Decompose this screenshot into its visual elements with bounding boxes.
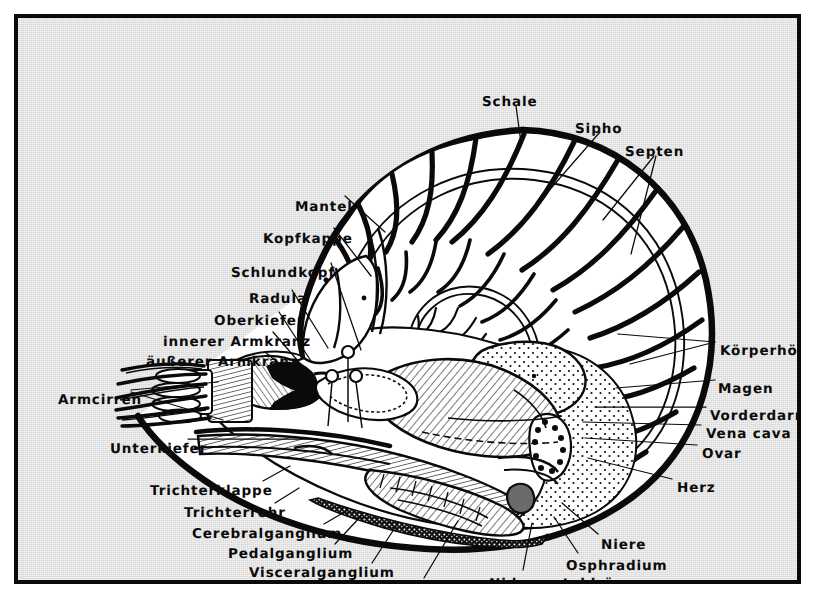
label-trichterklappe: Trichterklappe — [150, 485, 273, 499]
label-nidamentaldruese: Nidamentaldrüse — [489, 578, 633, 584]
label-mantel: Mantel — [295, 201, 353, 215]
label-septen: Septen — [625, 146, 684, 160]
heart-organ — [507, 484, 534, 513]
label-oberkiefer: Oberkiefer — [214, 315, 304, 329]
label-pedalganglium: Pedalganglium — [228, 548, 353, 562]
label-innerer-armkranz: innerer Armkranz — [163, 336, 311, 350]
label-sipho: Sipho — [575, 123, 622, 137]
label-vena-cava: Vena cava — [706, 428, 791, 442]
figure-root: SchaleSiphoSeptenMantelKopfkappeSchlundk… — [0, 0, 819, 603]
label-cerebralganglium: Cerebralganglium — [192, 528, 342, 542]
plate-frame: SchaleSiphoSeptenMantelKopfkappeSchlundk… — [14, 14, 801, 584]
label-kopfkappe: Kopfkappe — [263, 233, 353, 247]
label-schlundkopf: Schlundkopf — [231, 267, 335, 281]
osphradium — [529, 414, 571, 481]
label-osphradium: Osphradium — [566, 560, 668, 574]
label-unterkiefer: Unterkiefer — [110, 443, 207, 457]
label-aeusserer-armkranz: äußerer Armkranz — [146, 356, 299, 370]
label-ovar: Ovar — [702, 448, 742, 462]
label-armcirren: Armcirren — [58, 394, 142, 408]
label-vorderdarm: Vorderdarm — [710, 410, 801, 424]
label-schale: Schale — [482, 96, 538, 110]
label-herz: Herz — [677, 482, 716, 496]
label-niere: Niere — [601, 539, 646, 553]
label-visceralganglium: Visceralganglium — [249, 567, 395, 581]
label-radula: Radula — [249, 293, 307, 307]
label-koerperhoehle: Körperhöhle — [720, 345, 801, 359]
label-magen: Magen — [718, 383, 773, 397]
label-trichterrohr: Trichterrohr — [184, 507, 286, 521]
